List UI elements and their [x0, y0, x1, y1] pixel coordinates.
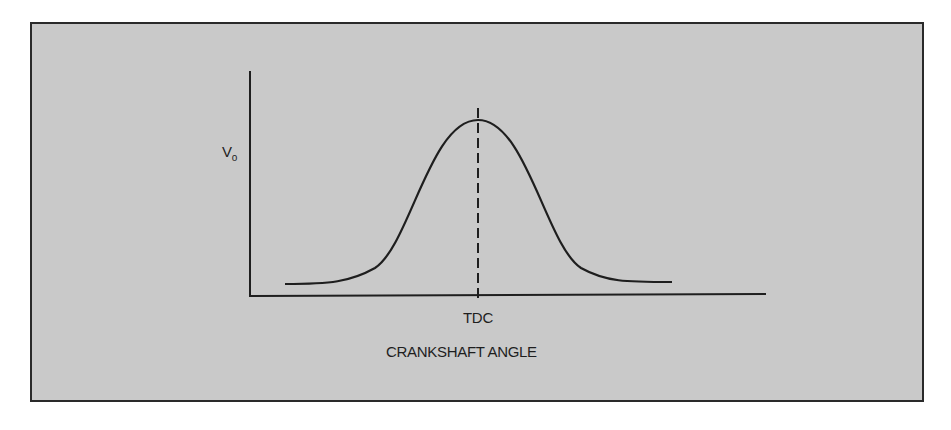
x-axis-label: CRANKSHAFT ANGLE	[386, 343, 537, 360]
y-label-subscript: o	[232, 152, 237, 163]
y-axis-label: Vo	[222, 143, 237, 163]
y-label-v: V	[222, 143, 232, 160]
tdc-tick-label: TDC	[463, 309, 493, 326]
chart-canvas	[0, 0, 951, 430]
x-axis	[249, 294, 766, 296]
